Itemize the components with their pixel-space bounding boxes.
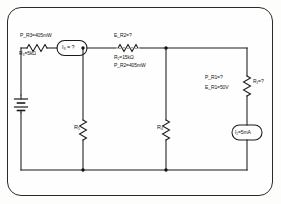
junction-dot-n2 xyxy=(164,46,167,49)
label-power-r1: P_R1=? xyxy=(205,75,223,80)
junction-dot-n4 xyxy=(164,168,167,171)
junction-dot-n1 xyxy=(81,46,84,49)
label-current-source-i3: I₃ = ? xyxy=(62,45,75,51)
label-r1-value: R₁=? xyxy=(253,79,264,84)
label-r5-value: R₅ xyxy=(74,125,80,131)
label-current-source-i1: I₁=5mA xyxy=(235,130,251,135)
label-r2-value: R₂=15kΩ xyxy=(114,55,134,60)
label-r3-value: R₃=5kΩ xyxy=(19,51,36,56)
label-voltage-r2: E_R2=? xyxy=(114,33,132,38)
resistor-r1-symbol xyxy=(244,76,251,96)
resistor-r4-symbol xyxy=(163,120,170,140)
label-power-r3: P_R3=405mW xyxy=(20,33,52,38)
schematic-drawing xyxy=(0,0,281,204)
resistor-r5-symbol xyxy=(80,120,87,140)
label-voltage-r1: E_R1=50V xyxy=(205,85,229,90)
label-r4-value: R₄ xyxy=(157,125,163,131)
junction-dot-n3 xyxy=(81,168,84,171)
circuit-diagram-canvas: P_R3=405mW R₃=5kΩ I₃ = ? E_R2=? R₂=15kΩ … xyxy=(0,0,281,204)
label-power-r2: P_R2=405mW xyxy=(114,63,146,68)
